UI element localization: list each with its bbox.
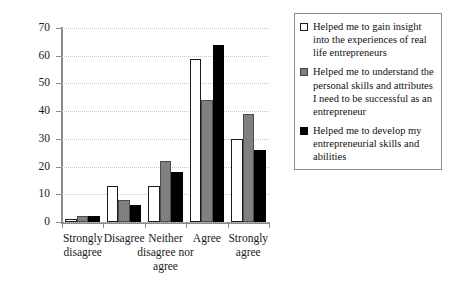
bar [88,216,100,222]
x-axis-tick [103,222,104,228]
bar [243,114,255,222]
bar [65,219,77,222]
bar [77,216,89,222]
bars-layer [62,28,269,222]
bar-group [231,28,266,222]
bar-group [190,28,225,222]
bar [231,139,243,222]
y-axis-tick-label: 20 [39,161,57,173]
legend-item-label: Helped me to gain insight into the exper… [313,20,436,59]
bar-group [148,28,183,222]
x-axis-category-label: Strongly agree [217,231,280,259]
y-axis-tick-label: 10 [39,189,57,201]
bar [107,186,119,222]
bar [118,200,130,222]
black-square-swatch [300,127,308,135]
x-axis-tick [228,222,229,228]
chart-legend: Helped me to gain insight into the exper… [294,13,442,170]
y-axis-tick-label: 30 [39,133,57,145]
bar [148,186,160,222]
bar [171,172,183,222]
white-square-swatch [300,23,308,31]
bar [201,100,213,222]
y-axis-tick-label: 0 [44,216,56,228]
bar [213,45,225,222]
bar-group [107,28,142,222]
bar [254,150,266,222]
y-axis-tick-label: 40 [39,105,57,117]
gray-square-swatch [300,68,308,76]
chart-page: 010203040506070 Strongly disagreeDisagre… [0,0,454,283]
legend-item-label: Helped me to understand the personal ski… [313,65,436,118]
legend-item[interactable]: Helped me to gain insight into the exper… [300,20,436,59]
bar [160,161,172,222]
legend-item[interactable]: Helped me to understand the personal ski… [300,65,436,118]
x-axis-tick [186,222,187,228]
x-axis-tick [62,222,63,228]
y-axis-tick-label: 70 [39,22,57,34]
legend-item-label: Helped me to develop my entrepreneurial … [313,124,436,163]
x-axis-tick [269,222,270,228]
gridline [62,222,269,223]
x-axis-tick [145,222,146,228]
bar [130,205,142,222]
y-axis-tick-label: 50 [39,78,57,90]
bar [190,59,202,223]
legend-item[interactable]: Helped me to develop my entrepreneurial … [300,124,436,163]
bar-group [65,28,100,222]
y-axis-tick-label: 60 [39,50,57,62]
